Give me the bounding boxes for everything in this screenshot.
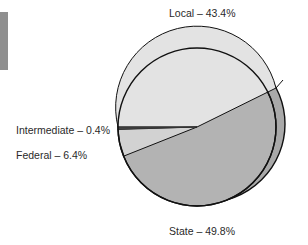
label-local: Local – 43.4% [169,7,236,19]
label-state: State – 49.8% [169,225,235,237]
rim-divider [276,80,283,88]
label-intermediate: Intermediate – 0.4% [16,124,110,136]
label-federal: Federal – 6.4% [16,149,87,161]
pie-chart [0,0,308,245]
